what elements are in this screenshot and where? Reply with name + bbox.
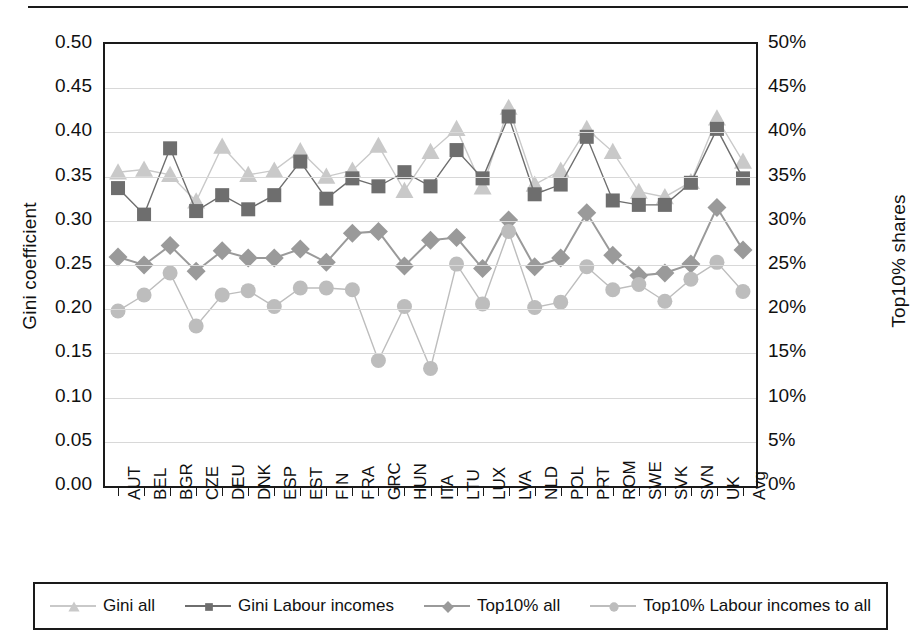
x-tick-label: AUT [125,466,145,500]
x-tick-label: FRA [359,466,379,500]
x-tick-label: ESP [281,466,301,500]
diamond-marker-icon [441,600,455,614]
legend-swatch-circle-icon [590,598,636,614]
x-tick-mark [431,488,432,496]
x-tick-label: GRC [385,462,405,500]
x-tick-mark [717,488,718,496]
legend-item[interactable]: Gini Labour incomes [185,596,394,616]
x-tick-label: DEU [229,464,249,500]
x-tick-label: EST [307,467,327,500]
x-tick-label: NLD [542,466,562,500]
legend-swatch-diamond-icon [424,598,470,614]
x-tick-label: POL [568,466,588,500]
x-tick-label: DNK [255,464,275,500]
x-tick-mark [274,488,275,496]
x-tick-label: SWE [646,461,666,500]
x-tick-label: Avg [750,471,770,500]
x-tick-label: SVN [698,465,718,500]
x-tick-label: LUX [490,467,510,500]
x-tick-mark [352,488,353,496]
x-tick-mark [691,488,692,496]
square-marker-icon [202,600,216,614]
x-tick-label: BEL [151,468,171,500]
x-tick-label: LTU [464,469,484,500]
legend-swatch-triangle-icon [50,598,96,614]
legend-label: Gini all [103,596,155,616]
x-tick-mark [665,488,666,496]
x-tick-mark [587,488,588,496]
x-tick-label: HUN [411,463,431,500]
x-tick-mark [639,488,640,496]
legend-item[interactable]: Top10% Labour incomes to all [590,596,871,616]
x-tick-label: FIN [333,473,353,500]
x-tick-mark [222,488,223,496]
legend-item[interactable]: Gini all [50,596,155,616]
x-axis-labels: AUTBELBGRCZEDEUDNKESPESTFINFRAGRCHUNITAL… [0,0,921,570]
triangle-marker-icon [67,600,81,614]
x-tick-label: BGR [177,463,197,500]
circle-marker-icon [607,600,621,614]
x-tick-mark [144,488,145,496]
legend-swatch-square-icon [185,598,231,614]
x-tick-label: LVA [516,470,536,500]
x-tick-label: UK [724,476,744,500]
x-tick-mark [483,488,484,496]
x-tick-mark [743,488,744,496]
x-tick-mark [535,488,536,496]
x-tick-mark [118,488,119,496]
legend-item[interactable]: Top10% all [424,596,560,616]
x-tick-mark [248,488,249,496]
legend-label: Top10% all [477,596,560,616]
legend-label: Gini Labour incomes [238,596,394,616]
x-tick-label: ITA [438,475,458,500]
x-tick-label: CZE [203,466,223,500]
x-tick-label: SVK [672,466,692,500]
x-tick-mark [378,488,379,496]
x-tick-label: ROM [620,460,640,500]
legend-label: Top10% Labour incomes to all [643,596,871,616]
x-tick-mark [326,488,327,496]
chart-legend: Gini allGini Labour incomesTop10% allTop… [33,582,888,630]
chart-figure: Gini coefficient Top10% shares 0.000.050… [0,0,921,643]
plot-wrapper: Gini coefficient Top10% shares 0.000.050… [0,0,921,570]
x-tick-mark [300,488,301,496]
x-tick-mark [613,488,614,496]
x-tick-mark [196,488,197,496]
x-tick-mark [404,488,405,496]
x-tick-label: PRT [594,466,614,500]
x-tick-mark [170,488,171,496]
x-tick-mark [509,488,510,496]
x-tick-mark [457,488,458,496]
x-tick-mark [561,488,562,496]
